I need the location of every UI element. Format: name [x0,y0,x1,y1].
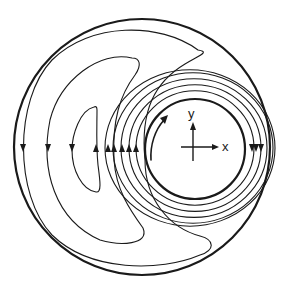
streamline-ring-1 [105,70,275,226]
streamline-diagram: x y [0,0,284,294]
y-axis-arrowhead [190,122,196,130]
arrow-up [93,144,99,152]
arrow-down [258,144,264,152]
x-axis-arrowhead [212,144,219,150]
outer-boundary [14,19,270,275]
rotation-arrow [151,120,164,160]
arrow-up [111,144,117,152]
x-axis-label: x [222,139,229,154]
streamline-ring-5 [136,91,254,205]
axes [181,128,214,161]
streamline-ring-4 [129,85,261,212]
arrow-up [126,144,132,152]
arrow-down [20,144,26,152]
streamline-outer [24,30,212,266]
y-axis-label: y [188,106,195,121]
arrow-up [119,144,125,152]
inner-cylinder [145,99,245,199]
arrow-up [105,144,111,152]
arrow-up [133,144,139,152]
arrow-down [45,144,51,152]
arrow-down [69,144,75,152]
